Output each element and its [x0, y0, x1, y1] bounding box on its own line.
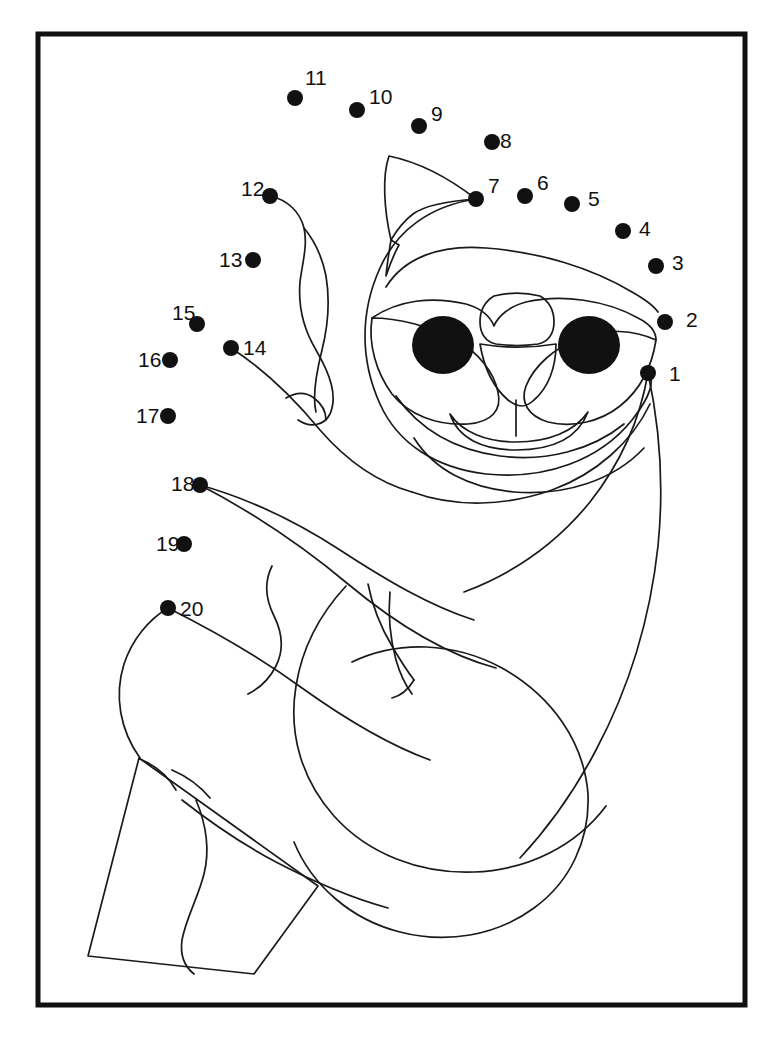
dot-label-1: 1 [669, 362, 681, 385]
mouth-curve [450, 412, 588, 450]
claw-upper-3 [392, 680, 414, 698]
dot-label-8: 8 [500, 129, 512, 152]
puzzle-dot-8[interactable] [484, 134, 500, 150]
right-eye-pupil [558, 316, 620, 374]
claw-upper-2 [389, 592, 412, 694]
page-border [38, 34, 745, 1005]
puzzle-dot-11[interactable] [287, 90, 303, 106]
dot-label-17: 17 [136, 404, 159, 427]
dot-label-15: 15 [172, 301, 195, 324]
dot-label-19: 19 [156, 532, 179, 555]
puzzle-dot-4[interactable] [615, 223, 631, 239]
arm-lower-inner [200, 485, 474, 620]
dot-label-10: 10 [369, 85, 392, 108]
puzzle-dot-14[interactable] [223, 340, 239, 356]
thigh-left [119, 608, 168, 758]
puzzle-page: 1234567891011121314151617181920 [0, 0, 761, 1059]
puzzle-dot-1[interactable] [640, 365, 656, 381]
dot-label-13: 13 [219, 248, 242, 271]
puzzle-dot-16[interactable] [162, 352, 178, 368]
leg-lower-body [294, 647, 588, 938]
dot-label-12: 12 [241, 177, 264, 200]
puzzle-dot-7[interactable] [468, 191, 484, 207]
dot-label-18: 18 [171, 472, 194, 495]
puzzle-dot-17[interactable] [160, 408, 176, 424]
foot-left-lower [182, 800, 388, 908]
ear-left [385, 156, 476, 240]
puzzle-dot-6[interactable] [517, 188, 533, 204]
puzzle-dot-18[interactable] [192, 477, 208, 493]
dot-label-11: 11 [305, 66, 327, 89]
forearm-left-edge [304, 228, 328, 412]
dot-label-7: 7 [488, 174, 500, 197]
puzzle-dot-20[interactable] [160, 600, 176, 616]
dot-label-2: 2 [686, 308, 698, 331]
belly-lower [294, 586, 606, 872]
fur-wave-upper [248, 566, 281, 694]
cheek-line-left [396, 396, 624, 458]
arm-upper-left [231, 348, 412, 492]
arm-lower [200, 485, 496, 668]
puzzle-dot-5[interactable] [564, 196, 580, 212]
puzzle-dot-10[interactable] [349, 102, 365, 118]
puzzle-canvas: 1234567891011121314151617181920 [0, 0, 761, 1059]
sloth-line-art [88, 156, 661, 974]
branch-wave [182, 800, 207, 974]
body-right-edge [520, 373, 661, 858]
forearm-left [270, 196, 333, 425]
dot-label-20: 20 [180, 597, 203, 620]
puzzle-dot-9[interactable] [411, 118, 427, 134]
puzzle-dot-3[interactable] [648, 258, 664, 274]
puzzle-dot-13[interactable] [245, 252, 261, 268]
dot-label-16: 16 [138, 348, 161, 371]
left-eye-pupil [412, 316, 474, 374]
dot-label-3: 3 [672, 251, 684, 274]
puzzle-dot-12[interactable] [262, 188, 278, 204]
foot-left-crease [172, 770, 210, 798]
dot-label-4: 4 [639, 217, 651, 240]
dot-label-14: 14 [243, 336, 267, 359]
puzzle-dot-2[interactable] [657, 314, 673, 330]
dot-label-9: 9 [431, 102, 443, 125]
dot-label-6: 6 [537, 171, 549, 194]
dot-label-5: 5 [588, 187, 600, 210]
belly-top [412, 404, 650, 503]
